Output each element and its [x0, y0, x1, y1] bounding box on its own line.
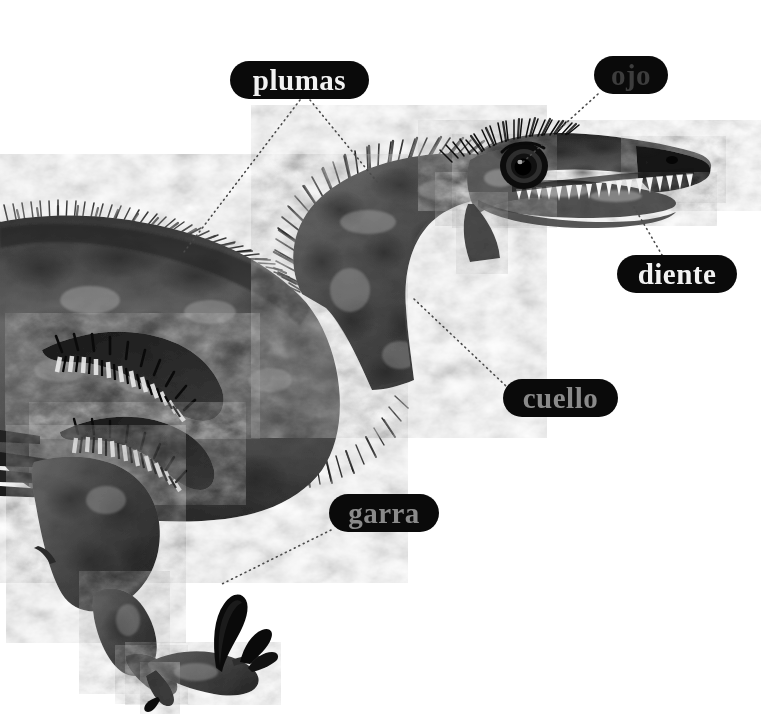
dinosaur-illustration — [0, 0, 778, 719]
label-plumas-text: plumas — [253, 66, 346, 95]
label-ojo-text: ojo — [611, 61, 651, 90]
label-diente-text: diente — [638, 260, 717, 289]
eye — [500, 143, 548, 189]
label-garra[interactable]: garra — [329, 494, 439, 532]
label-cuello-text: cuello — [523, 384, 599, 413]
label-garra-text: garra — [348, 499, 420, 528]
label-ojo[interactable]: ojo — [594, 56, 668, 94]
label-cuello[interactable]: cuello — [503, 379, 618, 417]
diagram-canvas: plumas ojo diente cuello garra — [0, 0, 778, 719]
label-plumas[interactable]: plumas — [230, 61, 369, 99]
nostril — [666, 156, 678, 164]
label-diente[interactable]: diente — [617, 255, 737, 293]
